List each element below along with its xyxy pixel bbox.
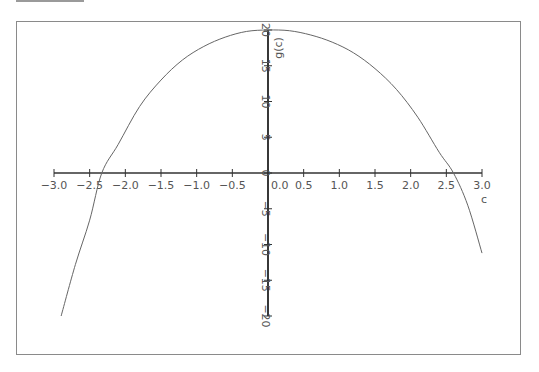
x-tick-label: −3.0 [41,179,68,192]
y-tick-label: 15 [259,59,272,73]
x-tick-label: 2.0 [402,179,420,192]
chart-canvas: −3.0−2.5−2.0−1.5−1.0−0.50.00.51.01.52.02… [0,0,539,372]
x-tick-label: 3.0 [473,179,491,192]
y-tick-label: −20 [259,304,272,327]
x-tick-label: −2.0 [112,179,139,192]
y-tick-label: 5 [259,134,272,141]
x-tick-label: −1.0 [183,179,210,192]
y-tick-label: 10 [259,95,272,109]
y-tick-label: −5 [259,201,272,217]
y-tick-label: 0 [259,170,272,177]
x-tick-label: 1.0 [331,179,349,192]
y-axis-label: g(c) [272,37,285,59]
x-tick-label: 0.0 [271,179,289,192]
y-tick-label: −10 [259,233,272,256]
y-tick-label: −15 [259,269,272,292]
x-tick-label: −1.5 [148,179,175,192]
x-tick-label: −0.5 [219,179,246,192]
y-axis-ticks: −20−15−10−505101520 [259,23,272,328]
x-tick-label: 1.5 [366,179,384,192]
x-tick-label: 2.5 [438,179,456,192]
x-tick-label: 0.5 [295,179,313,192]
x-axis-label: c [481,193,487,206]
